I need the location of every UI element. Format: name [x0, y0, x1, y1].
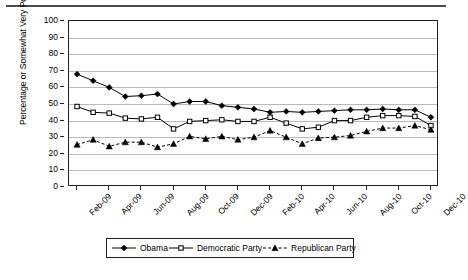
x-axis-tick-label: Apr-10 — [313, 192, 337, 216]
data-point-marker — [171, 127, 175, 131]
legend-label: Democratic Party — [197, 244, 262, 253]
y-axis-tick-label: 60 — [49, 82, 58, 91]
x-axis-tick-label: Feb-09 — [88, 192, 113, 217]
data-point-marker — [364, 115, 368, 119]
data-point-marker — [272, 245, 278, 251]
legend-marker-open-square-icon — [168, 243, 194, 253]
x-axis-tick-label: Jun-10 — [345, 192, 370, 217]
y-axis-tick-mark — [60, 37, 64, 38]
data-point-marker — [138, 93, 144, 99]
x-axis-tick-mark — [173, 186, 174, 190]
data-point-marker — [74, 71, 80, 77]
chart-figure: Percentage or Somewhat Very Positive 010… — [0, 12, 452, 280]
data-point-marker — [412, 122, 418, 128]
data-point-marker — [332, 118, 336, 122]
x-axis-tick-label: Aug-09 — [185, 192, 211, 218]
data-point-marker — [397, 113, 401, 117]
x-axis-tick-mark — [366, 186, 367, 190]
data-point-marker — [316, 125, 320, 129]
data-point-marker — [251, 134, 257, 140]
data-point-marker — [267, 109, 273, 115]
data-point-marker — [283, 109, 289, 115]
data-point-marker — [299, 141, 305, 147]
y-axis-tick-label: 30 — [49, 132, 58, 141]
y-axis-tick-mark — [60, 136, 64, 137]
data-point-marker — [348, 107, 354, 113]
data-point-marker — [187, 119, 191, 123]
x-axis-tick-label: Dec-09 — [249, 192, 275, 218]
data-point-marker — [284, 121, 288, 125]
y-axis-tick-mark — [60, 186, 64, 187]
data-point-marker — [170, 141, 176, 147]
chart-legend: ObamaDemocratic PartyRepublican Party — [106, 238, 354, 258]
data-point-marker — [268, 115, 272, 119]
x-axis-tick-mark — [76, 186, 77, 190]
data-point-marker — [219, 103, 225, 109]
data-point-marker — [380, 106, 386, 112]
legend-item-obama[interactable]: Obama — [111, 243, 168, 253]
y-axis-tick-label: 40 — [49, 116, 58, 125]
y-axis-tick-label: 100 — [44, 16, 58, 25]
y-axis-tick-mark — [60, 169, 64, 170]
x-axis-tick-label: Dec-10 — [442, 192, 468, 218]
data-point-marker — [413, 114, 417, 118]
x-axis-tick-labels: Feb-09Apr-09Jun-09Aug-09Oct-09Dec-09Feb-… — [68, 186, 438, 232]
legend-marker-filled-triangle-icon — [262, 243, 288, 253]
data-point-marker — [380, 113, 384, 117]
x-axis-tick-label: Jun-09 — [152, 192, 177, 217]
data-point-marker — [235, 104, 241, 110]
data-point-marker — [203, 99, 209, 105]
legend-marker-filled-diamond-icon — [111, 243, 137, 253]
y-axis-tick-label: 0 — [53, 182, 58, 191]
x-axis-tick-label: Oct-09 — [216, 192, 240, 216]
top-divider-rule — [6, 5, 446, 7]
x-axis-tick-mark — [108, 186, 109, 190]
data-point-marker — [300, 127, 304, 131]
x-axis-tick-label: Oct-10 — [409, 192, 433, 216]
y-axis-tick-label: 50 — [49, 99, 58, 108]
data-point-marker — [412, 107, 418, 113]
data-point-marker — [204, 118, 208, 122]
data-point-marker — [187, 133, 193, 139]
data-point-marker — [155, 91, 161, 97]
x-axis-tick-mark — [205, 186, 206, 190]
y-axis-tick-mark — [60, 70, 64, 71]
data-point-marker — [179, 246, 183, 250]
data-point-marker — [121, 245, 127, 251]
legend-item-democratic-party[interactable]: Democratic Party — [168, 243, 262, 253]
y-axis-tick-label: 10 — [49, 165, 58, 174]
data-point-marker — [236, 119, 240, 123]
x-axis-tick-mark — [333, 186, 334, 190]
data-point-marker — [107, 111, 111, 115]
y-axis-tick-mark — [60, 53, 64, 54]
x-axis-tick-label: Feb-10 — [281, 192, 306, 217]
y-axis-tick-label: 20 — [49, 149, 58, 158]
series-layer — [69, 21, 439, 187]
data-point-marker — [122, 94, 128, 100]
legend-item-republican-party[interactable]: Republican Party — [262, 243, 356, 253]
y-axis-title: Percentage or Somewhat Very Positive — [18, 0, 29, 126]
series-obama — [74, 71, 434, 120]
y-axis-tick-mark — [60, 103, 64, 104]
data-point-marker — [396, 107, 402, 113]
y-axis-tick-mark — [60, 20, 64, 21]
data-point-marker — [252, 119, 256, 123]
x-axis-tick-mark — [140, 186, 141, 190]
data-point-marker — [299, 109, 305, 115]
x-axis-tick-label: Aug-10 — [378, 192, 404, 218]
data-point-marker — [91, 110, 95, 114]
data-point-marker — [315, 109, 321, 115]
series-republican-party — [74, 122, 434, 149]
legend-label: Obama — [140, 244, 168, 253]
data-point-marker — [332, 108, 338, 114]
y-axis-tick-label: 70 — [49, 66, 58, 75]
data-point-marker — [187, 99, 193, 105]
data-point-marker — [251, 106, 257, 112]
x-axis-tick-mark — [301, 186, 302, 190]
y-axis-tick-mark — [60, 120, 64, 121]
data-point-marker — [106, 85, 112, 91]
x-axis-tick-mark — [398, 186, 399, 190]
data-point-marker — [139, 117, 143, 121]
x-axis-tick-mark — [430, 186, 431, 190]
data-point-marker — [348, 118, 352, 122]
